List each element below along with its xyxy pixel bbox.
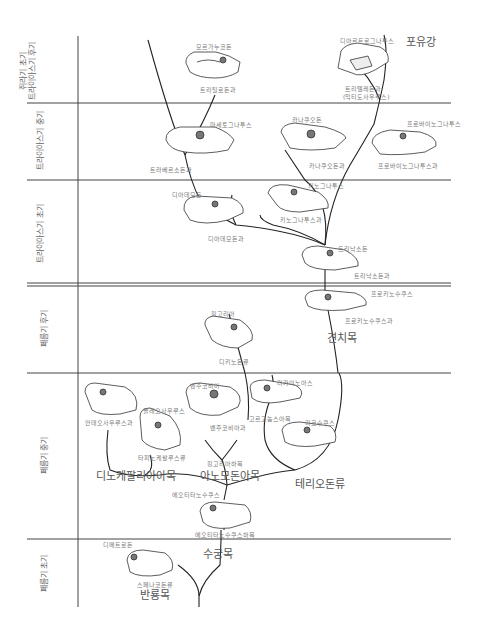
period-label-early-permian: 페름기 초기 — [40, 544, 49, 604]
label-mammalia: 포유강 — [406, 37, 436, 48]
skull-icon-diarthrognathus — [338, 43, 388, 75]
period-label-early-triassic: 트라이아스기 초기 — [36, 179, 45, 289]
period-label-late-permian: 페름기 후기 — [40, 299, 49, 359]
label-diademodon: 디아데모돈 — [172, 192, 202, 198]
label-dicynodontia: 디키노돈류 — [219, 359, 249, 365]
label-diarthrognathus: 디아르트로그나투스 — [340, 38, 394, 44]
label-diademodontidae: 디아데모돈과 — [208, 236, 244, 242]
label-cynodontia: 견치목 — [327, 333, 357, 344]
label-probainognathidae: 프로바이노그나투스과 — [378, 163, 438, 169]
label-dinocephalia: 디노케팔리아아목 — [96, 471, 176, 482]
label-traversodontidae: 트라베르소돈과 — [150, 167, 192, 173]
label-anomodontia: 아노모돈아목 — [200, 471, 260, 482]
label-therapsida: 수궁목 — [203, 549, 233, 560]
label-kannemeyerid-family: 카나쿠오돈과 — [309, 163, 345, 169]
label-moschops: 몰레오사우루스 — [143, 408, 185, 414]
period-label-late-triassic-early-jurassic: 쥐라기 초기 트라이아스기 후기 — [19, 31, 37, 111]
label-cynognathidae: 키노그나투스과 — [280, 217, 322, 223]
label-cynognathus: 키노그나투스 — [308, 183, 344, 189]
label-massetognathus: 마세토그나투스 — [210, 122, 252, 128]
label-tapinocephalia: 타피노케팔루스류 — [138, 455, 186, 461]
skull-icon-dimetrodon — [127, 550, 173, 576]
label-anteosaurus-family: 안테오사우루스과 — [85, 420, 133, 426]
skull-icon-diademodon — [184, 196, 243, 223]
label-kingoria: 킹고리아 — [211, 311, 235, 317]
label-kingoriinae: 킹고리아하목 — [207, 461, 243, 467]
skull-icon-moschops — [140, 408, 181, 450]
label-pelycosauria: 반룡목 — [140, 590, 170, 601]
skull-icon-kingoria — [205, 316, 253, 348]
label-trithelodontidae: 트리텔레돈과 — [345, 86, 381, 92]
skull-icon-massetognathus — [166, 127, 234, 153]
label-lycaenops: 리카이노아스 — [277, 380, 313, 386]
skull-icon-probainognathus — [372, 130, 436, 155]
label-procynosuchidae: 프로키노수쿠스과 — [345, 318, 393, 324]
label-venjukovia: 벤주코비아 — [190, 383, 220, 389]
period-label-middle-triassic: 트라이아스기 중기 — [36, 101, 45, 181]
label-eotitanosuchia: 에오티타노수쿠스하목 — [195, 532, 255, 538]
label-eotitanosuchus: 에오티타노수쿠스 — [172, 492, 220, 498]
skull-icon-tritylodont — [186, 52, 240, 78]
label-tritylodontidae: 트리틸로돈과 — [200, 87, 236, 93]
label-procynosuchus: 프로키노수쿠스 — [371, 291, 413, 297]
label-dimetrodon: 디메트로돈 — [103, 542, 133, 548]
skull-icon-procynosuchus — [305, 290, 366, 311]
phylogeny-diagram — [0, 0, 479, 640]
label-lycosuchus: 리코수쿠스 — [305, 420, 335, 426]
period-label-middle-permian: 페름기 중기 — [40, 426, 49, 486]
label-venjukoviidae: 벤주코비아과 — [210, 425, 246, 431]
label-thrinaxodon: 트리낙소돈 — [338, 246, 368, 252]
period-label-line1: 쥐라기 초기 — [19, 31, 28, 111]
label-morganucodon: 모르가누코돈 — [196, 44, 232, 50]
label-kannemeyerid-genus: 카나쿠오돈 — [292, 117, 322, 123]
label-thrinaxodontidae: 트리낙소돈과 — [354, 273, 390, 279]
label-ictidosaurus: (익티도사우루스) — [343, 94, 390, 100]
label-sphenacodontia: 스페나코돈류 — [137, 582, 173, 588]
skull-icon-kannemeyerid — [281, 123, 346, 150]
period-label-line2: 트라이아스기 후기 — [28, 31, 37, 111]
label-probainognathus: 프로바이노그나투스 — [407, 121, 461, 127]
label-theriodontia: 테리오돈류 — [295, 479, 345, 490]
label-gorgonopsia: 고르고놉스아목 — [249, 416, 291, 422]
skull-icon-eotitanosuchus — [200, 502, 251, 528]
skull-icon-anteosaurus — [85, 383, 137, 415]
